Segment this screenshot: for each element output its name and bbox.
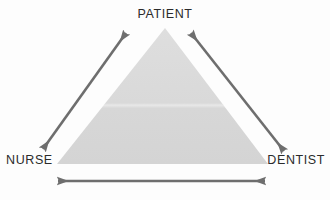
triangle-diagram-graphic bbox=[0, 0, 330, 200]
node-label-dentist: DENTIST bbox=[267, 154, 325, 167]
diagram-canvas: PATIENT NURSE DENTIST bbox=[0, 0, 330, 200]
node-label-nurse: NURSE bbox=[6, 154, 53, 167]
node-label-patient: PATIENT bbox=[0, 8, 330, 21]
triangle-shape bbox=[57, 28, 268, 164]
